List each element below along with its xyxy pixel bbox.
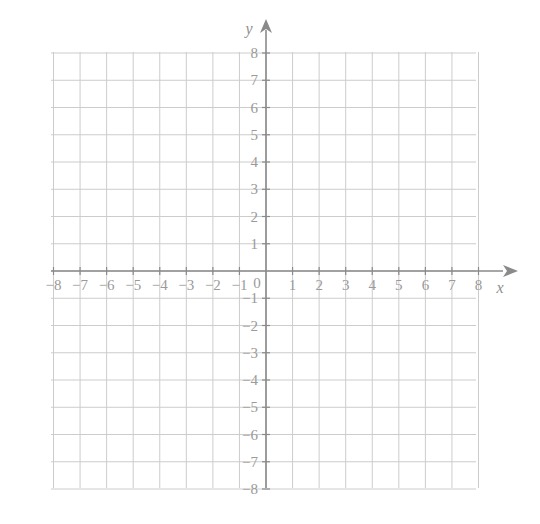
x-tick-label: 2	[315, 277, 323, 293]
x-axis-name-label: x	[495, 279, 503, 296]
x-axis-arrowhead	[503, 265, 518, 277]
y-tick-label: 2	[251, 209, 259, 225]
y-tick-label: −7	[242, 454, 258, 470]
y-tick-label: −5	[242, 399, 258, 415]
y-tick-label: −1	[242, 290, 258, 306]
y-tick-label: −4	[242, 372, 258, 388]
x-tick-label: 7	[448, 277, 456, 293]
axis-lines	[51, 19, 518, 488]
x-tick-label: 8	[475, 277, 483, 293]
y-tick-label: 3	[251, 181, 259, 197]
x-tick-label: −7	[72, 277, 88, 293]
coordinate-plane-canvas: −8−7−6−5−4−3−2−112345678087654321−1−2−3−…	[0, 0, 540, 524]
y-tick-label: 5	[251, 127, 259, 143]
y-tick-label: −6	[242, 427, 258, 443]
y-tick-label: 6	[251, 100, 259, 116]
x-tick-label: −6	[99, 277, 115, 293]
x-tick-label: 5	[395, 277, 403, 293]
y-tick-label: 8	[251, 45, 259, 61]
y-axis-name-label: y	[243, 20, 253, 38]
y-tick-label: −2	[242, 318, 258, 334]
x-tick-label: 6	[422, 277, 430, 293]
x-tick-label: −2	[205, 277, 221, 293]
y-tick-label: −8	[242, 481, 258, 497]
origin-label: 0	[253, 275, 261, 291]
axis-name-labels: xy	[243, 20, 503, 296]
x-tick-label: −5	[125, 277, 141, 293]
x-tick-label: −3	[178, 277, 194, 293]
x-tick-label: −8	[46, 277, 62, 293]
x-tick-label: 3	[342, 277, 350, 293]
x-tick-label: −4	[152, 277, 168, 293]
y-tick-label: 7	[251, 72, 259, 88]
coordinate-plane-figure: −8−7−6−5−4−3−2−112345678087654321−1−2−3−…	[0, 0, 540, 524]
y-tick-label: 4	[251, 154, 259, 170]
y-tick-label: 1	[251, 236, 259, 252]
x-tick-label: 1	[289, 277, 297, 293]
x-tick-label: 4	[369, 277, 377, 293]
y-tick-label: −3	[242, 345, 258, 361]
